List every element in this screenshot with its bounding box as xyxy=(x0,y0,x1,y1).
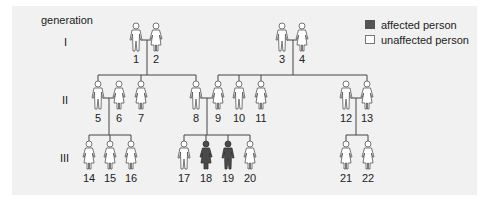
person-number-label: 13 xyxy=(357,112,377,124)
person-number-label: 5 xyxy=(88,112,108,124)
person-number-label: 16 xyxy=(121,172,141,184)
person-22-female-unaffected-icon xyxy=(362,141,374,169)
person-number-label: 15 xyxy=(100,172,120,184)
person-12-male-unaffected-icon xyxy=(340,81,352,109)
person-7-female-unaffected-icon xyxy=(135,81,147,109)
person-number-label: 14 xyxy=(79,172,99,184)
person-number-label: 6 xyxy=(109,112,129,124)
person-number-label: 10 xyxy=(229,112,249,124)
person-number-label: 9 xyxy=(208,112,228,124)
person-number-label: 20 xyxy=(240,172,260,184)
person-6-female-unaffected-icon xyxy=(113,81,125,109)
person-17-male-unaffected-icon xyxy=(178,141,190,169)
person-8-male-unaffected-icon xyxy=(190,81,202,109)
person-15-female-unaffected-icon xyxy=(104,141,116,169)
person-number-label: 17 xyxy=(174,172,194,184)
pedigree-lines xyxy=(0,0,495,201)
person-3-male-unaffected-icon xyxy=(276,23,288,51)
person-11-female-unaffected-icon xyxy=(255,81,267,109)
person-5-male-unaffected-icon xyxy=(92,81,104,109)
person-number-label: 8 xyxy=(186,112,206,124)
person-number-label: 18 xyxy=(196,172,216,184)
person-13-female-unaffected-icon xyxy=(361,81,373,109)
person-number-label: 3 xyxy=(272,53,292,65)
person-number-label: 1 xyxy=(126,53,146,65)
person-20-female-unaffected-icon xyxy=(244,141,256,169)
person-4-female-unaffected-icon xyxy=(296,23,308,51)
person-14-female-unaffected-icon xyxy=(83,141,95,169)
person-10-male-unaffected-icon xyxy=(233,81,245,109)
person-9-female-unaffected-icon xyxy=(212,81,224,109)
person-number-label: 4 xyxy=(292,53,312,65)
person-21-female-unaffected-icon xyxy=(340,141,352,169)
person-16-female-unaffected-icon xyxy=(125,141,137,169)
person-number-label: 11 xyxy=(251,112,271,124)
person-1-male-unaffected-icon xyxy=(130,23,142,51)
person-19-male-affected-icon xyxy=(222,141,234,169)
person-number-label: 2 xyxy=(146,53,166,65)
person-number-label: 12 xyxy=(336,112,356,124)
person-number-label: 21 xyxy=(336,172,356,184)
person-number-label: 22 xyxy=(358,172,378,184)
person-18-female-affected-icon xyxy=(200,141,212,169)
person-2-female-unaffected-icon xyxy=(150,23,162,51)
person-number-label: 7 xyxy=(131,112,151,124)
person-number-label: 19 xyxy=(218,172,238,184)
